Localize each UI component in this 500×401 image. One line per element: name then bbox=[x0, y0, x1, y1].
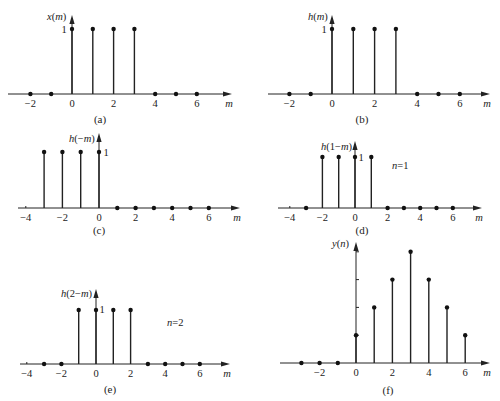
subfigure-caption: (a) bbox=[94, 113, 107, 126]
stem-marker bbox=[351, 27, 355, 31]
x-tick-label: 4 bbox=[153, 98, 159, 109]
stem-marker bbox=[372, 305, 376, 309]
stem-marker bbox=[390, 277, 394, 281]
stem-marker bbox=[132, 27, 136, 31]
stem-marker bbox=[77, 308, 81, 312]
subfigure-caption: (e) bbox=[104, 383, 117, 396]
x-tick-label: 4 bbox=[426, 367, 432, 378]
stem-marker bbox=[369, 155, 373, 159]
subfigure-caption: (c) bbox=[93, 224, 106, 237]
x-axis-arrow-icon bbox=[223, 91, 232, 96]
subfigure-caption: (b) bbox=[356, 113, 369, 126]
stem-marker bbox=[28, 92, 32, 96]
x-axis-label: m bbox=[225, 98, 233, 109]
x-axis-label: m bbox=[475, 212, 483, 223]
stem-marker bbox=[336, 361, 340, 365]
subfigure-caption: (f) bbox=[383, 384, 394, 397]
stem-marker bbox=[133, 206, 137, 210]
x-tick-label: 6 bbox=[450, 212, 455, 223]
unit-value-label: 1 bbox=[103, 147, 108, 158]
stem-marker bbox=[128, 308, 132, 312]
y-axis-label: h(m) bbox=[308, 11, 328, 23]
stem-marker bbox=[330, 27, 334, 31]
y-axis-arrow-icon bbox=[69, 15, 74, 24]
stem-marker bbox=[111, 308, 115, 312]
stem-marker bbox=[180, 362, 184, 366]
x-tick-label: −2 bbox=[25, 98, 36, 109]
stem-marker bbox=[458, 92, 462, 96]
x-tick-label: 0 bbox=[353, 367, 358, 378]
stem-marker bbox=[434, 206, 438, 210]
y-axis-arrow-icon bbox=[353, 242, 358, 251]
x-tick-label: 2 bbox=[128, 368, 133, 379]
x-tick-label: 2 bbox=[390, 367, 395, 378]
stem-marker bbox=[174, 92, 178, 96]
x-tick-label: 0 bbox=[93, 368, 98, 379]
stem-marker bbox=[304, 206, 308, 210]
x-tick-label: 4 bbox=[418, 212, 424, 223]
x-tick-label: −2 bbox=[56, 368, 67, 379]
x-tick-label: 0 bbox=[352, 212, 357, 223]
stem-marker bbox=[320, 155, 324, 159]
y-axis-arrow-icon bbox=[93, 289, 98, 298]
x-tick-label: 4 bbox=[163, 368, 169, 379]
y-axis-label: y(n) bbox=[331, 238, 349, 250]
x-tick-label: −4 bbox=[284, 212, 296, 223]
stem-marker bbox=[195, 92, 199, 96]
stem-marker bbox=[115, 206, 119, 210]
x-axis-arrow-icon bbox=[221, 361, 230, 366]
y-axis-arrow-icon bbox=[352, 141, 357, 150]
stem-marker bbox=[287, 92, 291, 96]
x-axis-label: m bbox=[483, 367, 491, 378]
x-axis-label: m bbox=[233, 212, 241, 223]
stem-plot-c: −4−20246mh(−m)1(c) bbox=[18, 133, 241, 237]
stem-marker bbox=[79, 150, 83, 154]
x-tick-label: −2 bbox=[57, 212, 68, 223]
stem-marker bbox=[42, 362, 46, 366]
stem-marker bbox=[42, 150, 46, 154]
y-axis-label: h(−m) bbox=[69, 133, 95, 145]
stem-marker bbox=[309, 92, 313, 96]
stem-marker bbox=[463, 333, 467, 337]
x-tick-label: 0 bbox=[96, 212, 101, 223]
x-tick-label: 2 bbox=[111, 98, 116, 109]
y-axis-label: x(m) bbox=[46, 11, 67, 23]
x-tick-label: 2 bbox=[385, 212, 390, 223]
stem-marker bbox=[418, 206, 422, 210]
stem-marker bbox=[385, 206, 389, 210]
stem-marker bbox=[354, 333, 358, 337]
stem-marker bbox=[445, 305, 449, 309]
stem-marker bbox=[427, 277, 431, 281]
stem-marker bbox=[152, 206, 156, 210]
x-tick-label: 6 bbox=[206, 212, 211, 223]
y-axis-label: h(2−m) bbox=[61, 288, 93, 300]
stem-marker bbox=[198, 362, 202, 366]
x-tick-label: 4 bbox=[415, 98, 421, 109]
x-tick-label: −2 bbox=[317, 212, 328, 223]
x-tick-label: 6 bbox=[194, 98, 199, 109]
x-axis-arrow-icon bbox=[481, 360, 490, 365]
stem-marker bbox=[415, 92, 419, 96]
stem-plot-b: −20246mh(m)1(b) bbox=[268, 11, 491, 126]
y-axis-label: h(1−m) bbox=[321, 141, 353, 153]
x-tick-label: 2 bbox=[133, 212, 138, 223]
x-tick-label: 0 bbox=[329, 98, 334, 109]
stem-marker bbox=[317, 361, 321, 365]
stem-marker bbox=[59, 362, 63, 366]
stem-marker bbox=[402, 206, 406, 210]
y-axis-arrow-icon bbox=[329, 15, 334, 24]
x-axis-arrow-icon bbox=[231, 205, 240, 210]
stem-plot-a: −20246mx(m)1(a) bbox=[8, 11, 233, 126]
stem-marker bbox=[188, 206, 192, 210]
stem-marker bbox=[394, 27, 398, 31]
stem-marker bbox=[111, 27, 115, 31]
x-axis-arrow-icon bbox=[481, 91, 490, 96]
x-tick-label: 6 bbox=[457, 98, 462, 109]
stem-marker bbox=[207, 206, 211, 210]
x-tick-label: −2 bbox=[284, 98, 295, 109]
stem-marker bbox=[49, 92, 53, 96]
x-tick-label: 4 bbox=[170, 212, 176, 223]
stem-marker bbox=[451, 206, 455, 210]
x-axis-arrow-icon bbox=[473, 205, 482, 210]
stem-marker bbox=[170, 206, 174, 210]
